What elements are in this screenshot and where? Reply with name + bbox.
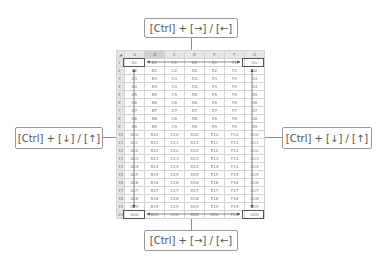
callout-left-ctrl-down-up: [Ctrl] + [↓] / [↑] [15, 127, 103, 149]
callout-right-ctrl-down-up: [Ctrl] + [↓] / [↑] [282, 127, 372, 149]
callout-top-ctrl-right-left: [Ctrl] + [→] / [←] [144, 18, 238, 38]
callout-bottom-ctrl-right-left: [Ctrl] + [→] / [←] [144, 230, 238, 251]
